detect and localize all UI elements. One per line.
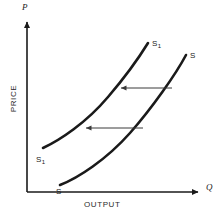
curve-label-s1-top-text: S [152,39,157,48]
supply-shift-diagram: P Q PRICE OUTPUT S1 S S1 S [0,0,221,216]
x-axis-title: OUTPUT [84,200,121,209]
curve-label-s1-bottom: S1 [36,155,45,164]
curve-label-s-top-text: S [190,51,195,60]
curve-label-s1-bottom-subscript: 1 [42,159,45,165]
curve-label-s-bottom-text: S [56,187,61,196]
y-axis-title: PRICE [9,77,18,121]
diagram-canvas [0,0,221,216]
curve-label-s-bottom: S [56,187,61,196]
curve-label-s1-top-subscript: 1 [158,43,161,49]
supply-curve-s [60,55,186,185]
y-axis-tip-label: P [22,2,28,12]
curve-label-s-top: S [190,51,195,60]
curve-label-s1-top: S1 [152,39,161,48]
x-axis-tip-label: Q [206,182,213,192]
curve-label-s1-bottom-text: S [36,155,41,164]
